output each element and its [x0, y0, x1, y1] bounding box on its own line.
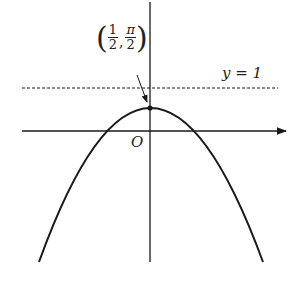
- asymptote-label: y = 1: [222, 64, 262, 82]
- graph-canvas: [0, 0, 296, 282]
- vertex-point: [147, 105, 152, 110]
- vertex-label: ( 1 2 , π 2 ): [96, 20, 148, 55]
- diagram: ( 1 2 , π 2 ) y = 1 O: [0, 0, 296, 282]
- origin-label: O: [131, 133, 143, 151]
